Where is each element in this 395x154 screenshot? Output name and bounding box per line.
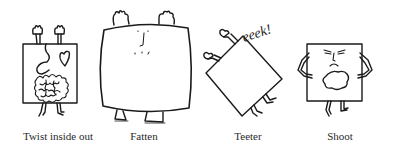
angry-face-icon bbox=[324, 50, 345, 66]
legs-icon bbox=[326, 101, 348, 116]
esophagus-icon bbox=[37, 44, 49, 74]
eeek-exclamation: eeek! bbox=[240, 21, 273, 44]
label-twist-inside-out: Twist inside out bbox=[23, 130, 93, 142]
teeter-figure: eeek! bbox=[204, 21, 282, 116]
face-icon bbox=[135, 31, 149, 54]
blast-hole-icon bbox=[323, 71, 349, 89]
twist-inside-out-figure bbox=[23, 26, 77, 116]
hands-on-hips-icon bbox=[298, 53, 372, 78]
legs-icon bbox=[251, 94, 276, 116]
label-teeter: Teeter bbox=[234, 130, 261, 142]
heart-icon bbox=[60, 51, 70, 66]
raised-arms-icon bbox=[33, 26, 65, 44]
fatten-figure bbox=[100, 11, 191, 123]
intestines-icon bbox=[35, 75, 69, 103]
shoot-body bbox=[307, 44, 362, 101]
label-fatten: Fatten bbox=[130, 130, 158, 142]
fatten-body bbox=[100, 24, 191, 111]
label-shoot: Shoot bbox=[327, 130, 353, 142]
shoot-figure bbox=[298, 44, 372, 116]
legs-icon bbox=[39, 103, 64, 116]
teeter-body bbox=[206, 36, 282, 116]
raised-hands-icon bbox=[113, 11, 174, 25]
